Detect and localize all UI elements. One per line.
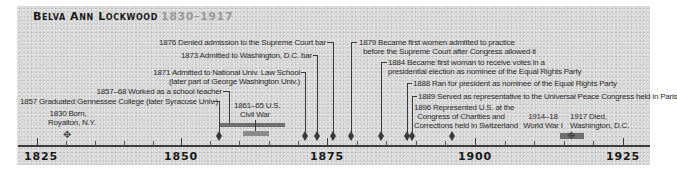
title-years: 1830–1917 bbox=[161, 10, 233, 23]
event-teacher-label: 1857–68 Worked as a school teacher bbox=[60, 87, 222, 96]
tick-minor bbox=[534, 141, 535, 146]
event-text: Congress of Charities and bbox=[414, 112, 508, 121]
tick-minor bbox=[505, 141, 506, 146]
leader-line bbox=[305, 72, 306, 132]
tick-minor bbox=[66, 141, 67, 146]
tick-1850 bbox=[181, 138, 182, 146]
event-text: 1879 Became first women admitted to prac… bbox=[359, 38, 536, 47]
event-text: 1857 Graduated Gennessee College (later … bbox=[20, 97, 218, 106]
leader-line bbox=[317, 55, 318, 132]
event-text: 1917 Died, bbox=[570, 112, 629, 121]
leader-line bbox=[351, 42, 352, 132]
event-text: Civil War bbox=[234, 110, 276, 119]
event-denied-label: 1876 Denied admission to the Supreme Cou… bbox=[130, 38, 326, 47]
tick-minor bbox=[416, 141, 417, 146]
event-votes-label: 1884 Became first woman to receive votes… bbox=[388, 58, 581, 76]
leader-line bbox=[381, 62, 382, 132]
leader-line bbox=[219, 101, 220, 132]
event-text: Corrections held in Switzerland bbox=[414, 121, 508, 130]
leader-line bbox=[333, 42, 334, 132]
tick-minor bbox=[298, 141, 299, 146]
event-ran-label: 1888 Ran for president as nominee of the… bbox=[413, 79, 617, 88]
event-text: 1830 Born, bbox=[48, 109, 88, 118]
birth-cross-icon: ✥ bbox=[63, 130, 71, 140]
event-text: Royalton, N.Y. bbox=[48, 118, 88, 127]
leader-line bbox=[412, 96, 413, 132]
tick-minor bbox=[445, 141, 446, 146]
event-text: 1896 Represented U.S. at the bbox=[414, 103, 508, 112]
civil-war-period-bar bbox=[243, 131, 269, 136]
event-text: 1876 Denied admission to the Supreme Cou… bbox=[159, 38, 326, 47]
event-text: 1914–18 bbox=[518, 112, 568, 121]
tick-label-1925: 1925 bbox=[606, 150, 640, 163]
tick-minor bbox=[564, 141, 565, 146]
tick-1825 bbox=[37, 138, 38, 146]
tick-minor bbox=[357, 141, 358, 146]
tick-minor bbox=[95, 141, 96, 146]
event-text: 1861–65 U.S. bbox=[234, 101, 276, 110]
tick-label-1850: 1850 bbox=[164, 150, 198, 163]
event-text: before the Supreme Court after Congress … bbox=[359, 47, 536, 56]
tick-1875 bbox=[327, 138, 328, 146]
event-ww1-label: 1914–18 World War I bbox=[518, 112, 568, 130]
event-text: 1873 Admitted to Washington, D.C. bar bbox=[181, 51, 312, 60]
tick-minor bbox=[153, 141, 154, 146]
title-name: Belva Ann Lockwood bbox=[33, 10, 158, 23]
event-genesee-label: 1857 Graduated Gennessee College (later … bbox=[20, 97, 213, 106]
event-died-label: 1917 Died, Washington, D.C. bbox=[570, 112, 629, 130]
leader-line bbox=[229, 91, 230, 123]
tick-minor bbox=[210, 141, 211, 146]
event-text: 1884 Became first woman to receive votes… bbox=[388, 58, 581, 67]
event-born-label: 1830 Born, Royalton, N.Y. bbox=[48, 109, 88, 127]
tick-minor bbox=[593, 141, 594, 146]
teacher-period-bar bbox=[219, 123, 285, 127]
tick-minor bbox=[386, 141, 387, 146]
tick-label-1900: 1900 bbox=[458, 150, 492, 163]
tick-minor bbox=[239, 141, 240, 146]
event-dcbar-label: 1873 Admitted to Washington, D.C. bar bbox=[150, 51, 312, 60]
tick-1900 bbox=[475, 138, 476, 146]
event-text: 1888 Ran for president as nominee of the… bbox=[413, 79, 617, 88]
event-lawschool-label: 1871 Admitted to National Univ. Law Scho… bbox=[110, 68, 300, 86]
event-text: Washington, D.C. bbox=[570, 121, 629, 130]
leader-line bbox=[407, 83, 408, 132]
event-text: (later part of George Washington Univ.) bbox=[110, 77, 300, 86]
event-text: presidential election as nominee of the … bbox=[388, 67, 581, 76]
leader-line bbox=[255, 120, 256, 131]
timeline-title: Belva Ann Lockwood1830–1917 bbox=[33, 10, 233, 23]
death-cross-icon: ✥ bbox=[567, 131, 575, 141]
tick-1925 bbox=[623, 138, 624, 146]
event-text: 1871 Admitted to National Univ. Law Scho… bbox=[110, 68, 300, 77]
event-text: 1889 Served as representative to the Uni… bbox=[418, 92, 677, 101]
timeline-axis bbox=[18, 145, 650, 147]
tick-label-1825: 1825 bbox=[24, 150, 58, 163]
event-peace-label: 1889 Served as representative to the Uni… bbox=[418, 92, 677, 101]
event-text: World War I bbox=[518, 121, 568, 130]
event-swiss-label: 1896 Represented U.S. at the Congress of… bbox=[414, 103, 508, 130]
event-civilwar-label: 1861–65 U.S. Civil War bbox=[234, 101, 276, 119]
event-text: 1857–68 Worked as a school teacher bbox=[96, 87, 222, 96]
event-supreme-label: 1879 Became first women admitted to prac… bbox=[359, 38, 536, 56]
tick-label-1875: 1875 bbox=[310, 150, 344, 163]
tick-minor bbox=[269, 141, 270, 146]
tick-minor bbox=[124, 141, 125, 146]
